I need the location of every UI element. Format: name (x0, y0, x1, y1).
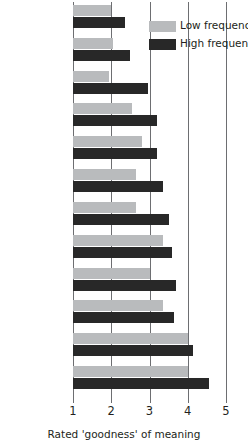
bar-low-frequency (73, 202, 136, 213)
bar-row: Saricik (73, 68, 226, 101)
gridline-5 (226, 2, 227, 396)
bar-high-frequency (73, 312, 174, 323)
bar-high-frequency (73, 83, 148, 94)
x-tick-label: 4 (178, 404, 198, 418)
x-tick (226, 396, 227, 403)
bar-low-frequency (73, 169, 136, 180)
chart-legend: Low frequency High frequency (149, 18, 248, 54)
legend-swatch-low-frequency (149, 21, 176, 32)
bar-row: Kadirga (73, 166, 226, 199)
bar-row: Civadra (73, 363, 226, 396)
x-tick-label: 1 (63, 404, 83, 418)
bar-row: Enanwal (73, 199, 226, 232)
bar-high-frequency (73, 378, 209, 389)
x-tick-label: 2 (101, 404, 121, 418)
x-tick (188, 396, 189, 403)
bar-high-frequency (73, 115, 157, 126)
legend-item-high-frequency: High frequency (149, 36, 248, 54)
plot-area: IktitafAfworbuSaricikBiwojniNansomaKadir… (73, 2, 226, 396)
bar-low-frequency (73, 38, 113, 49)
x-axis-title: Rated 'goodness' of meaning (0, 428, 248, 440)
x-tick (150, 396, 151, 403)
bar-chart: IktitafAfworbuSaricikBiwojniNansomaKadir… (0, 0, 248, 448)
bar-row: Zabulon (73, 265, 226, 298)
x-tick (73, 396, 74, 403)
x-tick-label: 3 (140, 404, 160, 418)
bar-low-frequency (73, 300, 163, 311)
bar-high-frequency (73, 214, 169, 225)
bar-row: Dilikli (73, 232, 226, 265)
bar-high-frequency (73, 247, 172, 258)
bar-low-frequency (73, 103, 132, 114)
bar-rows: IktitafAfworbuSaricikBiwojniNansomaKadir… (73, 2, 226, 396)
bar-low-frequency (73, 235, 163, 246)
x-tick-label: 5 (216, 404, 236, 418)
legend-swatch-high-frequency (149, 39, 176, 50)
bar-row: Nansoma (73, 133, 226, 166)
legend-label-high-frequency: High frequency (180, 37, 248, 50)
bar-row: Biwojni (73, 100, 226, 133)
bar-low-frequency (73, 5, 111, 16)
bar-high-frequency (73, 50, 130, 61)
legend-item-low-frequency: Low frequency (149, 18, 248, 36)
bar-high-frequency (73, 148, 157, 159)
bar-high-frequency (73, 181, 163, 192)
bar-high-frequency (73, 17, 125, 28)
bar-low-frequency (73, 136, 142, 147)
bar-low-frequency (73, 71, 109, 82)
bar-low-frequency (73, 366, 188, 377)
bar-low-frequency (73, 333, 188, 344)
bar-high-frequency (73, 345, 193, 356)
legend-label-low-frequency: Low frequency (180, 19, 248, 32)
bar-row: Jandara (73, 330, 226, 363)
bar-high-frequency (73, 280, 176, 291)
x-tick (111, 396, 112, 403)
bar-row: Lokanta (73, 297, 226, 330)
bar-low-frequency (73, 268, 150, 279)
